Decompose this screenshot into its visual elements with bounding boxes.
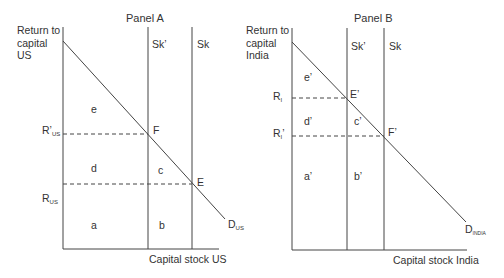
panel-a-title: Panel A	[126, 12, 164, 24]
panel-b-area-b-prime: b’	[354, 170, 362, 182]
y-label-line: capital	[246, 37, 289, 50]
d-sub: INDIA	[473, 230, 486, 236]
panel-b-area-c-prime: c’	[354, 115, 362, 127]
r-main: R	[273, 90, 281, 102]
panel-a-lines	[63, 27, 225, 249]
panel-a-y-axis-label: Return to capital US	[17, 24, 60, 62]
panel-b-x-axis-label: Capital stock India	[393, 254, 479, 266]
y-label-line: India	[246, 49, 289, 62]
panel-b-r-label: RI	[273, 90, 282, 106]
panel-b-title: Panel B	[354, 12, 393, 24]
panel-b-demand-line	[292, 42, 466, 222]
panel-a-sk-label: Sk	[197, 38, 209, 50]
panel-b-point-f-prime: F’	[388, 126, 397, 138]
panel-b-y-axis-label: Return to capital India	[246, 24, 289, 62]
panel-b-lines	[292, 28, 467, 250]
panel-a-demand-label: DUS	[228, 218, 244, 234]
d-main: D	[228, 218, 236, 230]
y-label-line: Return to	[246, 24, 289, 37]
panel-a-x-axis-label: Capital stock US	[149, 253, 227, 265]
r-sub: I	[281, 97, 283, 103]
r-sub: US	[50, 199, 58, 205]
panel-b-sk-label: Sk	[389, 40, 401, 52]
panel-a-area-c: c	[158, 164, 163, 176]
panel-a-sk-prime-label: Sk’	[152, 38, 167, 50]
r-main: R	[273, 127, 281, 139]
r-main: R	[42, 192, 50, 204]
panel-a-r-label: RUS	[42, 192, 58, 208]
y-label-line: capital	[17, 37, 60, 50]
panel-a-area-a: a	[91, 219, 97, 231]
panel-b-area-e-prime: e’	[304, 71, 312, 83]
panel-b-sk-prime-label: Sk’	[351, 40, 366, 52]
panel-a-r-prime-label: R’US	[42, 124, 60, 140]
panel-a-area-d: d	[91, 162, 97, 174]
panel-a-point-f: F	[153, 124, 159, 136]
y-label-line: US	[17, 49, 60, 62]
r-prime-mark: ’	[282, 127, 284, 139]
r-main: R’	[42, 124, 52, 136]
d-main: D	[465, 223, 473, 235]
panel-b-point-e-prime: E’	[350, 88, 359, 100]
panel-b-area-d-prime: d’	[304, 115, 312, 127]
panel-a-demand-line	[63, 41, 225, 219]
panel-b-demand-label: DINDIA	[465, 223, 486, 239]
y-label-line: Return to	[17, 24, 60, 37]
panel-a-point-e: E	[197, 176, 204, 188]
r-sub: US	[52, 131, 60, 137]
panel-b-r-prime-label: RI’	[273, 127, 285, 143]
panel-a-area-e: e	[91, 103, 97, 115]
panel-a-area-b: b	[159, 219, 165, 231]
d-sub: US	[236, 225, 244, 231]
panel-b-area-a-prime: a’	[304, 170, 312, 182]
